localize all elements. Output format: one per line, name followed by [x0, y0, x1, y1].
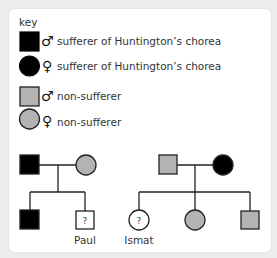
son-non-sufferer-square-icon: [241, 211, 259, 229]
male-symbol-icon: ♂: [41, 33, 54, 49]
male-symbol-icon: ♂: [41, 88, 54, 104]
key: key ♂ sufferer of Huntington’s chorea ♀ …: [19, 16, 221, 129]
key-item-male-non-sufferer: ♂ non-sufferer: [20, 87, 122, 106]
family-2: [129, 155, 259, 230]
key-item-male-sufferer: ♂ sufferer of Huntington’s chorea: [20, 32, 221, 51]
son-sufferer-square-icon: [20, 210, 39, 229]
key-item-female-sufferer: ♀ sufferer of Huntington’s chorea: [20, 56, 222, 76]
pedigree-diagram: key ♂ sufferer of Huntington’s chorea ♀ …: [0, 0, 277, 258]
key-label: sufferer of Huntington’s chorea: [57, 60, 221, 72]
name-label-ismat: Ismat: [124, 234, 153, 246]
key-item-female-non-sufferer: ♀ non-sufferer: [20, 109, 122, 129]
name-label-paul: Paul: [74, 234, 96, 246]
unknown-mark: ?: [137, 216, 142, 226]
mother-sufferer-circle-icon: [213, 155, 233, 175]
female-sufferer-circle-icon: [20, 56, 40, 76]
father-sufferer-square-icon: [20, 155, 39, 174]
female-symbol-icon: ♀: [42, 58, 52, 74]
key-label: sufferer of Huntington’s chorea: [57, 35, 221, 47]
unknown-mark: ?: [83, 216, 88, 226]
key-title: key: [19, 16, 37, 28]
female-symbol-icon: ♀: [42, 113, 52, 129]
father-non-sufferer-square-icon: [159, 155, 177, 174]
male-sufferer-square-icon: [20, 32, 39, 51]
male-non-sufferer-square-icon: [20, 87, 39, 106]
mother-non-sufferer-circle-icon: [76, 155, 96, 175]
female-non-sufferer-circle-icon: [20, 109, 40, 129]
key-label: non-sufferer: [57, 116, 122, 128]
daughter-non-sufferer-circle-icon: [185, 210, 205, 230]
key-label: non-sufferer: [57, 90, 122, 102]
